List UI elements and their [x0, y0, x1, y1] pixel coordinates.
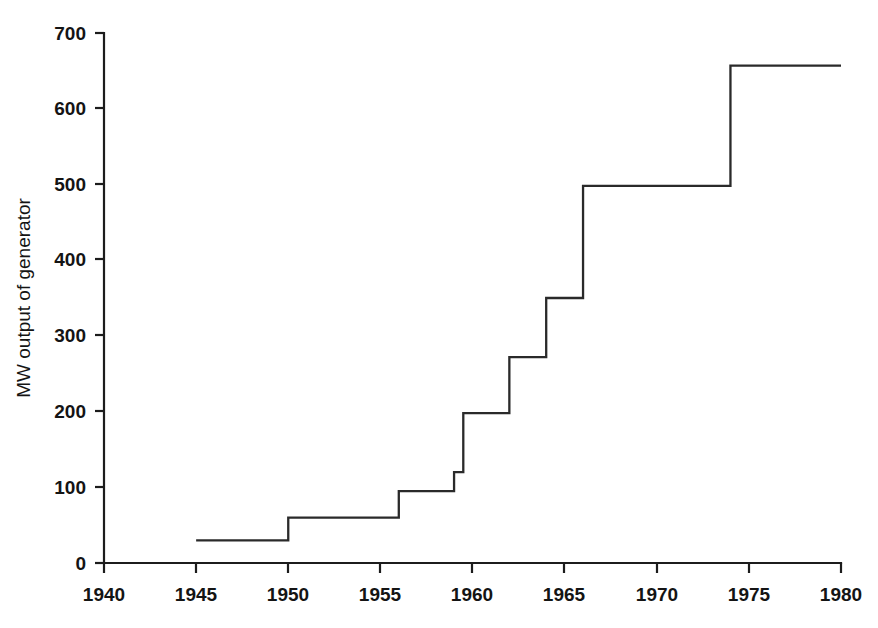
y-tick-label: 700 — [54, 23, 86, 44]
x-tick-label: 1940 — [83, 584, 125, 605]
y-tick-label: 400 — [54, 249, 86, 270]
plot-background — [0, 0, 878, 628]
y-tick-label: 300 — [54, 325, 86, 346]
y-tick-label: 0 — [75, 553, 86, 574]
x-tick-label: 1955 — [359, 584, 402, 605]
x-tick-label: 1975 — [728, 584, 771, 605]
x-tick-labels: 1940 1945 1950 1955 1960 1965 1970 1975 … — [83, 584, 862, 605]
y-axis-label: MW output of generator — [13, 198, 34, 398]
x-tick-label: 1960 — [451, 584, 493, 605]
y-tick-label: 500 — [54, 174, 86, 195]
x-tick-label: 1980 — [820, 584, 862, 605]
x-tick-label: 1970 — [636, 584, 678, 605]
x-tick-label: 1950 — [267, 584, 309, 605]
x-tick-label: 1945 — [175, 584, 218, 605]
x-tick-label: 1965 — [543, 584, 586, 605]
step-chart-canvas: 700 600 500 400 300 200 100 0 1940 1945 … — [0, 0, 878, 628]
y-tick-label: 600 — [54, 98, 86, 119]
y-tick-label: 200 — [54, 401, 86, 422]
chart-figure: 700 600 500 400 300 200 100 0 1940 1945 … — [0, 0, 878, 628]
y-tick-label: 100 — [54, 477, 86, 498]
